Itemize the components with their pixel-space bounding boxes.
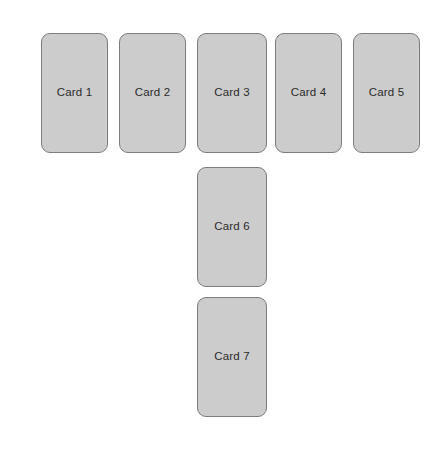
card-label: Card 3 (214, 87, 250, 99)
card-item[interactable]: Card 5 (353, 33, 420, 153)
card-item[interactable]: Card 7 (197, 297, 267, 417)
card-label: Card 7 (214, 351, 250, 363)
card-item[interactable]: Card 6 (197, 167, 267, 287)
card-label: Card 5 (369, 87, 405, 99)
card-label: Card 4 (291, 87, 327, 99)
card-item[interactable]: Card 1 (41, 33, 108, 153)
card-layout-canvas: Card 1 Card 2 Card 3 Card 4 Card 5 Card … (0, 0, 445, 451)
card-item[interactable]: Card 3 (197, 33, 267, 153)
card-label: Card 2 (135, 87, 171, 99)
card-item[interactable]: Card 2 (119, 33, 186, 153)
card-label: Card 6 (214, 221, 250, 233)
card-item[interactable]: Card 4 (275, 33, 342, 153)
card-label: Card 1 (57, 87, 93, 99)
